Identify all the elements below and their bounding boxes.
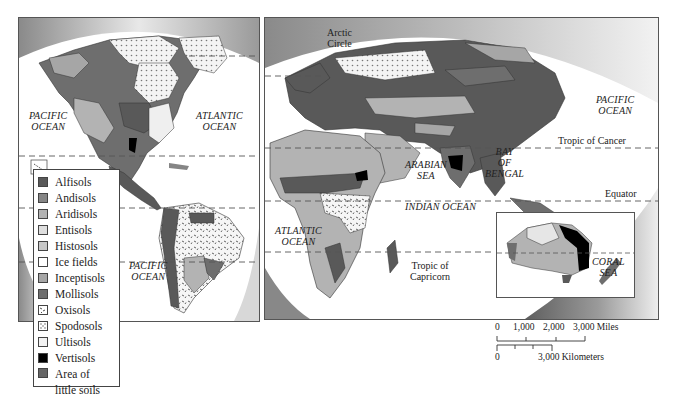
legend-item-entisols: Entisols [38,223,92,237]
australia-inset-graphic [497,213,634,297]
scale-miles-tick-0: 0 [495,322,500,332]
legend-label: Inceptisols [55,272,105,284]
legend-label: Vertisols [55,352,95,364]
australia-inset: CORAL SEA [496,212,635,298]
legend-item-alfisols: Alfisols [38,175,91,189]
andisols-swatch [38,193,48,203]
arctic-circle-label: Arctic Circle [327,27,352,49]
legend-label: Andisols [55,192,96,204]
arabian-sea-label: ARABIAN SEA [405,159,447,181]
legend-item-ice-fields: Ice fields [38,255,97,269]
oxisols-swatch [38,305,48,315]
entisols-swatch [38,225,48,235]
scale-miles-tick-2000: 2,000 [543,322,564,332]
legend-label: Entisols [55,224,92,236]
legend-item-spodosols: Spodosols [38,319,102,333]
aridisols-swatch [38,209,48,219]
bay-of-bengal-label: BAY OF BENGAL [485,146,524,179]
pacific-ocean-label: PACIFIC OCEAN [29,110,67,132]
spodosols-swatch [38,321,48,331]
ice-fields-swatch [38,257,48,267]
coral-sea-label: CORAL SEA [592,256,625,278]
legend-item-little-soils: Area of little soils [38,366,100,380]
mollisols-swatch [38,289,48,299]
scale-km-label: 3,000 Kilometers [538,352,604,362]
equator-label: Equator [605,188,637,199]
legend-item-histosols: Histosols [38,239,98,253]
scale-miles-tick-3000: 3,000 Miles [573,322,618,332]
legend-item-aridisols: Aridisols [38,207,97,221]
little-soils-swatch [38,368,48,378]
legend-item-oxisols: Oxisols [38,303,90,317]
pacific-ocean-south-label: PACIFIC OCEAN [129,260,167,282]
ultisols-swatch [38,337,48,347]
legend-label: Ice fields [55,256,97,268]
legend-label: Area of little soils [55,366,100,398]
legend-item-ultisols: Ultisols [38,335,91,349]
atlantic-ocean-label: ATLANTIC OCEAN [196,110,243,132]
legend-label: Ultisols [55,336,91,348]
alfisols-swatch [38,177,48,187]
scale-bar: 0 1,000 2,000 3,000 Miles 0 3,000 Kilome… [495,322,625,367]
legend-item-mollisols: Mollisols [38,287,98,301]
legend-item-andisols: Andisols [38,191,96,205]
scale-km-tick-0: 0 [495,352,500,362]
legend-label: Alfisols [55,176,91,188]
legend-label: Aridisols [55,208,97,220]
indian-ocean-label: INDIAN OCEAN [405,201,476,212]
scale-miles-tick-1000: 1,000 [513,322,534,332]
legend-label: Mollisols [55,288,98,300]
pacific-ocean-east-label: PACIFIC OCEAN [596,94,634,116]
legend-label: Histosols [55,240,98,252]
histosols-swatch [38,241,48,251]
vertisols-swatch [38,353,48,363]
inceptisols-swatch [38,273,48,283]
legend-item-vertisols: Vertisols [38,351,95,365]
legend-label: Oxisols [55,304,90,316]
atlantic-ocean-south-label: ATLANTIC OCEAN [275,225,322,247]
tropic-of-cancer-label: Tropic of Cancer [558,135,626,146]
legend-item-inceptisols: Inceptisols [38,271,105,285]
tropic-of-capricorn-label: Tropic of Capricorn [410,260,450,282]
eastern-hemisphere-map-panel: Arctic Circle Tropic of Cancer Equator T… [264,17,659,320]
legend-label: Spodosols [55,320,102,332]
soil-legend: Alfisols Andisols Aridisols Entisols His… [33,169,120,387]
